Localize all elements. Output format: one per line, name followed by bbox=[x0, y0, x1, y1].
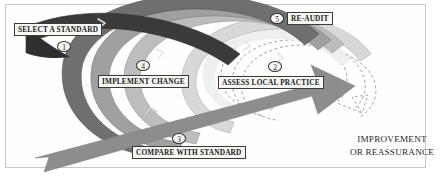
stage-number-4: 4 bbox=[136, 60, 150, 71]
stage-number-1: 1 bbox=[57, 41, 71, 52]
stage-label-compare-with-standard: COMPARE WITH STANDARD bbox=[132, 146, 246, 159]
stage-number-3: 3 bbox=[172, 133, 186, 144]
stage-number-2: 2 bbox=[268, 61, 282, 72]
improvement-caption-line-1: IMPROVEMENT bbox=[344, 133, 440, 146]
figure-root: 1 2 3 4 5 SELECT A STANDARD ASSESS LOCAL… bbox=[0, 0, 445, 178]
stage-label-re-audit: RE-AUDIT bbox=[287, 12, 333, 25]
stage-label-implement-change: IMPLEMENT CHANGE bbox=[98, 75, 189, 88]
stage-label-select-a-standard: SELECT A STANDARD bbox=[14, 23, 102, 36]
improvement-caption: IMPROVEMENT OR REASSURANCE bbox=[344, 133, 440, 158]
improvement-caption-line-2: OR REASSURANCE bbox=[344, 146, 440, 159]
stage-label-assess-local-practice: ASSESS LOCAL PRACTICE bbox=[218, 76, 324, 89]
stage-number-5: 5 bbox=[270, 13, 284, 24]
